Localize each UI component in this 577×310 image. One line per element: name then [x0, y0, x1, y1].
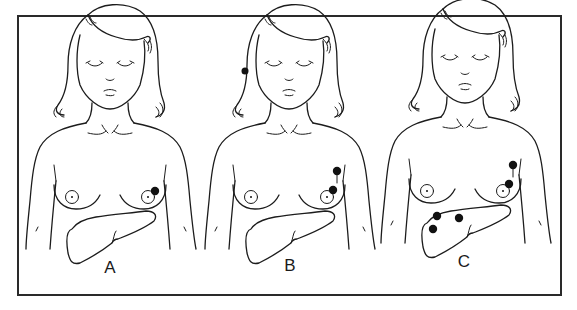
panel-label-b: B	[284, 257, 295, 274]
torso-drawing-a	[26, 5, 196, 264]
panel-b	[205, 5, 375, 264]
panel-a	[26, 5, 196, 264]
breast-tumor-dot-b	[329, 186, 337, 194]
axillary-node-dot-c	[509, 161, 517, 169]
breast-tumor-dot-a	[151, 187, 159, 195]
breast-tumor-dot-c	[505, 180, 513, 188]
panel-c	[381, 0, 551, 258]
figure-stage: A B C	[0, 0, 577, 310]
liver-metastasis-dot-3	[455, 214, 463, 222]
figure-frame	[18, 16, 561, 295]
torso-drawing-b	[205, 5, 375, 264]
axillary-node-dot-b	[333, 167, 341, 175]
liver-metastasis-dot-1	[433, 212, 441, 220]
panel-label-a: A	[104, 259, 115, 276]
liver-metastasis-dot-2	[429, 225, 437, 233]
hair-mark-b	[242, 68, 249, 75]
torso-drawing-c	[381, 0, 551, 258]
panel-label-c: C	[458, 253, 470, 270]
